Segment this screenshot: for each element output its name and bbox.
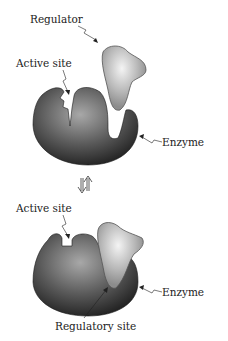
active-site-leader-line-top: [63, 70, 68, 92]
enzyme-label-top: Enzyme: [162, 136, 204, 148]
enzyme-label-bottom: Enzyme: [162, 286, 204, 298]
active-site-label-bottom: Active site: [16, 202, 72, 214]
active-site-label-top: Active site: [16, 57, 72, 69]
regulatory-site-label: Regulatory site: [55, 320, 136, 332]
enzyme-leader-line-top: [142, 137, 162, 143]
active-site-leader-line-bottom: [62, 215, 68, 236]
enzyme-leader-line-bottom: [142, 288, 162, 293]
regulator-leader-line: [78, 26, 96, 40]
regulator-label: Regulator: [30, 13, 83, 25]
equilibrium-arrow-icon: [78, 176, 92, 193]
regulator-shape: [102, 46, 146, 110]
